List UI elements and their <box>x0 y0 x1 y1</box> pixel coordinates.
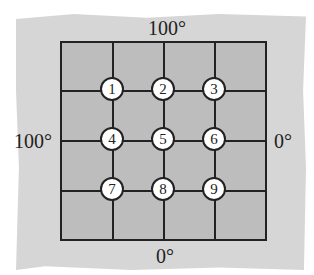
figure-canvas: 1 2 3 4 5 6 7 8 9 100° 100° 0° 0° <box>0 0 314 275</box>
top-boundary-temp: 100° <box>148 18 186 38</box>
node-7: 7 <box>100 177 124 201</box>
node-9: 9 <box>202 177 226 201</box>
node-6: 6 <box>202 127 226 151</box>
node-4: 4 <box>100 127 124 151</box>
node-2: 2 <box>151 77 175 101</box>
node-3: 3 <box>202 77 226 101</box>
bottom-boundary-temp: 0° <box>156 246 174 266</box>
node-8: 8 <box>151 177 175 201</box>
node-1: 1 <box>100 77 124 101</box>
node-5: 5 <box>151 127 175 151</box>
right-boundary-temp: 0° <box>274 131 292 151</box>
left-boundary-temp: 100° <box>14 131 52 151</box>
